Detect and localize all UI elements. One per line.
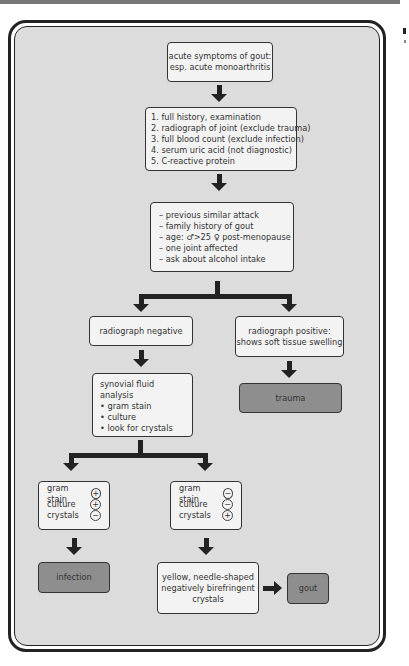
result-row: gram stain− (179, 488, 233, 499)
result-label: crystals (179, 510, 211, 521)
arrow-down-icon (139, 350, 144, 359)
history-item: – ask about alcohol intake (159, 254, 285, 265)
result-row: gram stain+ (47, 488, 101, 499)
branch-connector (215, 281, 220, 295)
investigation-item: 3. full blood count (exclude infection) (151, 134, 291, 145)
top-bar (0, 0, 400, 4)
plus-circle-icon: + (222, 510, 233, 521)
arrow-head-icon (211, 183, 227, 191)
arrow-down-icon (217, 174, 222, 183)
result-label: crystals (47, 510, 79, 521)
minus-circle-icon: − (222, 499, 233, 510)
arrow-head-icon (66, 547, 82, 555)
radiograph-negative-box: radiograph negative (89, 316, 193, 346)
radiograph-positive-line-2: shows soft tissue swelling (236, 337, 343, 348)
arrow-head-icon (198, 547, 214, 555)
side-mark (404, 40, 406, 43)
branch-connector (287, 294, 292, 304)
history-box: – previous similar attack – family histo… (150, 202, 294, 272)
start-line-1: acute symptoms of gout: (168, 51, 272, 62)
trauma-outcome-box: trauma (239, 383, 342, 413)
arrow-head-right-icon (274, 581, 282, 595)
investigation-item: 2. radiograph of joint (exclude trauma) (151, 123, 291, 134)
synovial-title: synovial fluid analysis (100, 379, 185, 401)
result-row: crystals− (47, 510, 101, 521)
plus-circle-icon: + (90, 499, 101, 510)
arrow-head-icon (133, 359, 149, 367)
minus-circle-icon: − (90, 510, 101, 521)
branch-connector (138, 440, 143, 454)
radiograph-negative-label: radiograph negative (90, 326, 192, 337)
radiograph-positive-box: radiograph positive: shows soft tissue s… (235, 316, 344, 357)
arrow-head-icon (211, 94, 227, 102)
history-item: – previous similar attack (159, 210, 285, 221)
result-label: culture (47, 499, 76, 510)
investigations-box: 1. full history, examination 2. radiogra… (145, 107, 297, 171)
result-label: culture (179, 499, 208, 510)
arrow-head-icon (281, 304, 297, 312)
crystals-description-box: yellow, needle-shaped negatively birefri… (157, 562, 259, 614)
branch-connector (203, 453, 208, 463)
start-line-2: esp. acute monoarthritis (168, 62, 272, 73)
investigation-item: 4. serum uric acid (not diagnostic) (151, 145, 291, 156)
synovial-box: synovial fluid analysis • gram stain • c… (92, 373, 193, 437)
crystals-line-3: crystals (158, 594, 258, 605)
gout-results-box: gram stain− culture− crystals+ (170, 481, 242, 530)
result-row: crystals+ (179, 510, 233, 521)
history-item: – age: ♂>25 ♀ post-menopause (159, 232, 285, 243)
radiograph-positive-line-1: radiograph positive: (236, 326, 343, 337)
side-mark (403, 28, 406, 34)
arrow-head-icon (281, 370, 297, 378)
start-box: acute symptoms of gout: esp. acute monoa… (167, 42, 273, 82)
investigation-item: 5. C-reactive protein (151, 156, 291, 167)
branch-connector (69, 453, 208, 458)
plus-circle-icon: + (91, 488, 101, 499)
arrow-down-icon (217, 85, 222, 94)
result-row: culture+ (47, 499, 101, 510)
synovial-item: • gram stain (100, 401, 185, 412)
gout-outcome-box: gout (287, 573, 329, 604)
arrow-head-icon (63, 463, 79, 471)
arrow-down-icon (204, 538, 209, 547)
arrow-right-icon (263, 586, 274, 591)
investigation-item: 1. full history, examination (151, 112, 291, 123)
arrow-head-icon (133, 304, 149, 312)
history-item: – one joint affected (159, 243, 285, 254)
gout-label: gout (288, 583, 328, 594)
arrow-down-icon (287, 361, 292, 370)
arrow-head-icon (197, 463, 213, 471)
history-item: – family history of gout (159, 221, 285, 232)
branch-connector (139, 294, 292, 299)
infection-label: infection (39, 572, 109, 583)
minus-circle-icon: − (223, 488, 233, 499)
trauma-label: trauma (240, 393, 341, 404)
branch-connector (139, 294, 144, 304)
infection-outcome-box: infection (38, 562, 110, 593)
branch-connector (69, 453, 74, 463)
synovial-item: • look for crystals (100, 423, 185, 434)
arrow-down-icon (72, 538, 77, 547)
synovial-item: • culture (100, 412, 185, 423)
crystals-line-1: yellow, needle-shaped (158, 572, 258, 583)
result-row: culture− (179, 499, 233, 510)
crystals-line-2: negatively birefringent (158, 583, 258, 594)
infection-results-box: gram stain+ culture+ crystals− (38, 481, 110, 530)
